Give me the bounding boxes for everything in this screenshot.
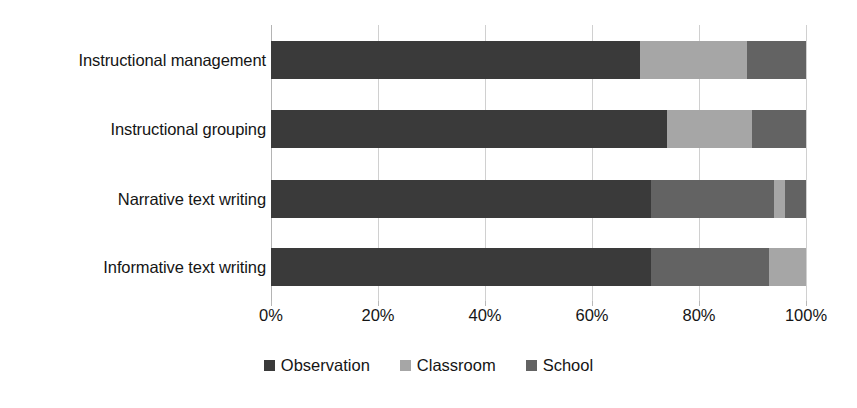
- bar-segment-classroom: [640, 41, 747, 79]
- x-axis-tick-mark: [699, 301, 700, 306]
- bar-segment-school: [747, 41, 806, 79]
- x-axis-tick-label: 0%: [259, 307, 283, 324]
- plot-area: [271, 25, 806, 301]
- gridline: [806, 25, 807, 301]
- bar-row: [271, 248, 806, 286]
- category-label: Informative text writing: [103, 259, 266, 276]
- bar-row: [271, 41, 806, 79]
- bar-segment-classroom: [667, 110, 753, 148]
- bar-segment-school: [651, 180, 774, 218]
- bar-segment-classroom: [774, 180, 785, 218]
- legend-label: Observation: [281, 357, 370, 374]
- category-label: Narrative text writing: [118, 191, 266, 208]
- legend-swatch-icon: [526, 360, 537, 371]
- x-axis-tick-mark: [806, 301, 807, 306]
- bar-row: [271, 180, 806, 218]
- legend-swatch-icon: [264, 360, 275, 371]
- bar-segment-observation: [271, 180, 651, 218]
- bar-row: [271, 110, 806, 148]
- x-axis-tick-label: 80%: [682, 307, 715, 324]
- x-axis-tick-label: 20%: [361, 307, 394, 324]
- category-label: Instructional grouping: [110, 121, 266, 138]
- bar-segment-observation: [271, 110, 667, 148]
- legend-label: School: [543, 357, 593, 374]
- x-axis-tick-mark: [378, 301, 379, 306]
- legend-swatch-icon: [400, 360, 411, 371]
- legend-item: Classroom: [400, 357, 496, 374]
- bar-segment-school: [785, 180, 806, 218]
- bar-segment-observation: [271, 41, 640, 79]
- stacked-bar-chart: Instructional managementInstructional gr…: [0, 0, 857, 408]
- x-axis-tick-label: 60%: [575, 307, 608, 324]
- x-axis-tick-mark: [592, 301, 593, 306]
- legend-item: School: [526, 357, 593, 374]
- x-axis-tick-mark: [271, 301, 272, 306]
- bar-segment-observation: [271, 248, 651, 286]
- x-axis-tick-mark: [485, 301, 486, 306]
- bar-segment-school: [651, 248, 769, 286]
- x-axis-tick-label: 100%: [785, 307, 827, 324]
- chart-legend: ObservationClassroomSchool: [0, 357, 857, 374]
- bar-segment-classroom: [769, 248, 806, 286]
- category-label: Instructional management: [79, 52, 266, 69]
- legend-label: Classroom: [417, 357, 496, 374]
- x-axis-tick-label: 40%: [468, 307, 501, 324]
- bar-segment-school: [752, 110, 806, 148]
- legend-item: Observation: [264, 357, 370, 374]
